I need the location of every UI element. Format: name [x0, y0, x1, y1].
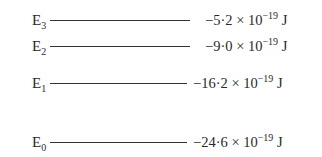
energy-level-e2: E2−9·0 × 10−19 J [0, 36, 322, 56]
level-letter: E [32, 12, 41, 28]
level-subscript: 2 [41, 46, 46, 57]
level-letter: E [32, 134, 41, 150]
level-energy-value: −24·6 × 10−19 J [193, 135, 283, 150]
level-label: E1 [32, 76, 46, 91]
level-energy-value: −5·2 × 10−19 J [205, 13, 287, 28]
level-subscript: 0 [41, 142, 46, 153]
level-label: E2 [32, 39, 46, 54]
energy-mantissa: −24·6 × 10 [193, 134, 258, 150]
level-line [50, 83, 187, 84]
energy-unit: J [278, 38, 287, 54]
level-line [50, 46, 190, 47]
level-label: E0 [32, 135, 46, 150]
energy-exponent: −19 [262, 36, 278, 47]
energy-unit: J [273, 75, 282, 91]
level-letter: E [32, 75, 41, 91]
energy-mantissa: −5·2 × 10 [205, 12, 262, 28]
energy-unit: J [278, 12, 287, 28]
level-subscript: 1 [41, 83, 46, 94]
energy-exponent: −19 [258, 132, 274, 143]
energy-mantissa: −9·0 × 10 [205, 38, 262, 54]
energy-exponent: −19 [258, 73, 274, 84]
level-label: E3 [32, 13, 46, 28]
energy-level-e0: E0−24·6 × 10−19 J [0, 132, 322, 152]
energy-mantissa: −16·2 × 10 [193, 75, 258, 91]
level-energy-value: −16·2 × 10−19 J [193, 76, 283, 91]
level-letter: E [32, 38, 41, 54]
level-subscript: 3 [41, 20, 46, 31]
level-line [50, 20, 190, 21]
energy-unit: J [273, 134, 282, 150]
energy-exponent: −19 [262, 10, 278, 21]
level-energy-value: −9·0 × 10−19 J [205, 39, 287, 54]
energy-level-e1: E1−16·2 × 10−19 J [0, 73, 322, 93]
energy-level-e3: E3−5·2 × 10−19 J [0, 10, 322, 30]
level-line [50, 142, 187, 143]
